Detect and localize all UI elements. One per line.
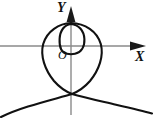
outer-loop-path — [42, 23, 102, 94]
x-axis-label: X — [135, 50, 144, 64]
right-branch-path — [72, 94, 152, 114]
origin-label: O — [58, 49, 67, 61]
curve-figure: Y X O — [0, 0, 153, 122]
left-branch-path — [1, 94, 72, 117]
y-axis-arrow-icon — [67, 6, 76, 22]
y-axis-label: Y — [57, 1, 66, 15]
plot-canvas — [0, 0, 153, 122]
